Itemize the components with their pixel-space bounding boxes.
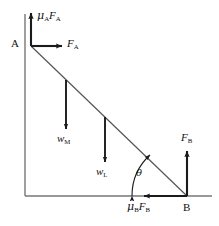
w-subscript-m: M (64, 138, 70, 145)
force-label-fa: FA (67, 38, 79, 50)
force-label-mub-fb: μBFB (127, 201, 150, 213)
force-label-wl: wL (96, 166, 108, 178)
force-label-fb: FB (181, 132, 192, 144)
force-label-mua-fa: μAFA (37, 10, 61, 22)
point-label-b: B (183, 202, 190, 213)
diagram-canvas (0, 0, 219, 226)
free-body-diagram: A B μAFA FA wM wL FB μBFB θ (0, 0, 219, 226)
f-subscript-a2: A (74, 43, 79, 50)
w-subscript-l: L (103, 171, 107, 178)
f-symbol-b1: F (181, 131, 188, 143)
f-subscript-b1: B (188, 137, 193, 144)
ladder-line (31, 46, 187, 196)
f-symbol-a2: F (67, 37, 74, 49)
f-subscript-b2: B (145, 206, 150, 213)
point-label-a: A (11, 38, 19, 49)
f-symbol-a1: F (49, 9, 56, 21)
f-subscript-a1: A (56, 15, 61, 22)
angle-label-theta: θ (136, 168, 142, 178)
force-label-wm: wM (57, 133, 70, 145)
